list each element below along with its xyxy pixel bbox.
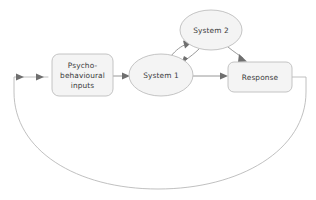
node-inputs-label-line-1: Psycho-	[68, 61, 98, 70]
node-system2[interactable]: System 2	[180, 10, 242, 50]
diagram-canvas: Psycho- behavioural inputs System 1 Syst…	[0, 0, 316, 200]
node-inputs-label-line-3: inputs	[71, 81, 95, 90]
feedback-arrow-head-inner	[36, 74, 44, 81]
edge-inputs-to-system1	[113, 73, 130, 80]
node-response-label: Response	[242, 73, 279, 82]
node-inputs-label-line-2: behavioural	[60, 71, 105, 80]
feedback-arrow-head-outer	[16, 74, 24, 81]
diagram-svg: Psycho- behavioural inputs System 1 Syst…	[0, 0, 316, 200]
node-response[interactable]: Response	[228, 62, 292, 92]
edge-system2-to-response	[228, 47, 247, 62]
node-system1[interactable]: System 1	[129, 54, 193, 96]
edge-system1-to-response	[193, 73, 228, 80]
system1-to-response-arrow-head	[220, 73, 228, 80]
system2-to-response-arrow-head	[238, 54, 247, 62]
node-system1-label: System 1	[143, 71, 179, 80]
node-system2-label: System 2	[193, 26, 228, 35]
node-inputs[interactable]: Psycho- behavioural inputs	[52, 54, 113, 96]
